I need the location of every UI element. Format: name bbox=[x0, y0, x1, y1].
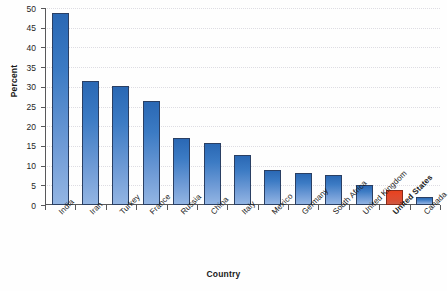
bar-france bbox=[143, 101, 160, 205]
y-axis-title: Percent bbox=[9, 51, 19, 111]
y-axis-tick-label: 40 bbox=[27, 43, 36, 53]
y-axis-tick-label: 35 bbox=[27, 63, 36, 73]
x-axis-category-labels: IndiaIranTurkeyFranceRussiaChinaItalyMex… bbox=[45, 210, 440, 270]
x-axis-title: Country bbox=[0, 269, 447, 279]
y-axis-tick-label: 5 bbox=[31, 181, 36, 191]
bar-china bbox=[204, 143, 221, 205]
y-axis-tick-label: 10 bbox=[27, 161, 36, 171]
y-axis-tick-label: 45 bbox=[27, 23, 36, 33]
plot-area: 05101520253035404550 bbox=[45, 8, 440, 205]
bar-series bbox=[45, 8, 440, 205]
bar-iran bbox=[82, 81, 99, 205]
bar-india bbox=[52, 13, 69, 205]
bar-russia bbox=[173, 138, 190, 205]
y-axis-tick-label: 0 bbox=[31, 201, 36, 211]
y-axis-tick-label: 15 bbox=[27, 141, 36, 151]
bar-turkey bbox=[112, 86, 129, 205]
y-axis-tick-label: 20 bbox=[27, 122, 36, 132]
y-axis-tick-label: 30 bbox=[27, 82, 36, 92]
y-axis-tick-label: 25 bbox=[27, 102, 36, 112]
bar-italy bbox=[234, 155, 251, 205]
y-axis-tick-label: 50 bbox=[27, 4, 36, 14]
x-axis-tick bbox=[440, 205, 441, 210]
